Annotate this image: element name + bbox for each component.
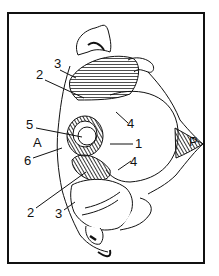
label-4-top: 4 <box>127 117 134 130</box>
label-a-anterior: A <box>33 136 42 149</box>
label-6: 6 <box>24 154 31 167</box>
label-5: 5 <box>26 118 33 131</box>
label-p-posterior: P <box>189 135 198 148</box>
label-2-top: 2 <box>36 68 43 81</box>
label-1: 1 <box>135 137 142 150</box>
label-4-lower: 4 <box>130 155 137 168</box>
label-3-bottom: 3 <box>55 207 62 220</box>
label-2-bottom: 2 <box>27 206 34 219</box>
label-3-top: 3 <box>54 57 61 70</box>
